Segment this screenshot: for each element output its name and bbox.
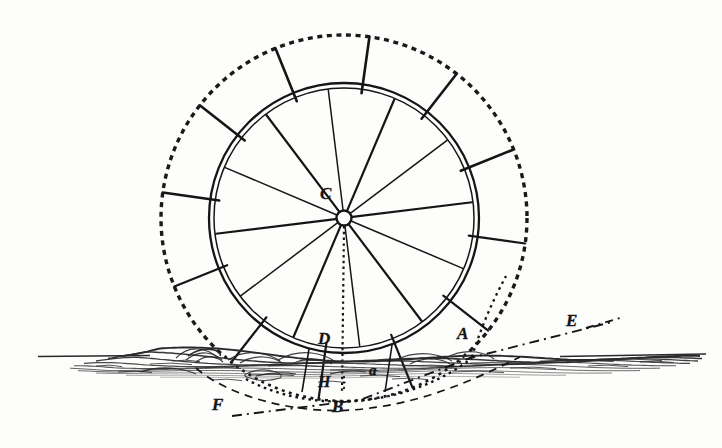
point-label-a: a bbox=[369, 363, 377, 378]
figure-root: CDHBaAEF bbox=[0, 0, 722, 448]
point-label-h: H bbox=[318, 374, 330, 390]
construction-arcs bbox=[196, 276, 520, 411]
point-label-a: A bbox=[457, 325, 468, 342]
hub-circle bbox=[337, 211, 352, 226]
point-label-b: B bbox=[332, 398, 343, 415]
point-label-e: E bbox=[566, 312, 577, 329]
paddle-wheel-diagram bbox=[0, 0, 722, 448]
point-label-f: F bbox=[212, 396, 223, 413]
datum-line-FE bbox=[232, 318, 620, 416]
point-label-c: C bbox=[320, 185, 331, 202]
point-label-d: D bbox=[318, 330, 330, 347]
